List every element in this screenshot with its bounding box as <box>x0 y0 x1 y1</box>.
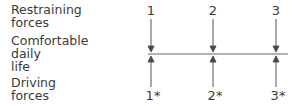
arrowhead-icon <box>148 46 154 52</box>
arrowhead-icon <box>210 56 216 62</box>
arrowhead-icon <box>148 56 154 62</box>
force-field-diagram <box>0 0 297 106</box>
arrowhead-icon <box>210 46 216 52</box>
arrowhead-icon <box>273 56 279 62</box>
arrowhead-icon <box>273 46 279 52</box>
